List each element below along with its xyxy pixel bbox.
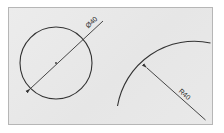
- drawing-screenshot: Ø40 R40: [0, 0, 224, 133]
- drawing-panel: [8, 7, 213, 125]
